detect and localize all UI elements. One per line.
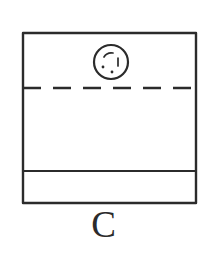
outer-rectangle xyxy=(23,33,196,203)
figure-caption: C xyxy=(0,206,207,244)
circle-detail xyxy=(94,45,128,79)
dot-mark-bottom xyxy=(111,71,114,74)
figure-canvas: C xyxy=(0,0,207,256)
arc-mark-top-left xyxy=(104,53,113,57)
dot-mark-lower-left xyxy=(102,66,105,69)
